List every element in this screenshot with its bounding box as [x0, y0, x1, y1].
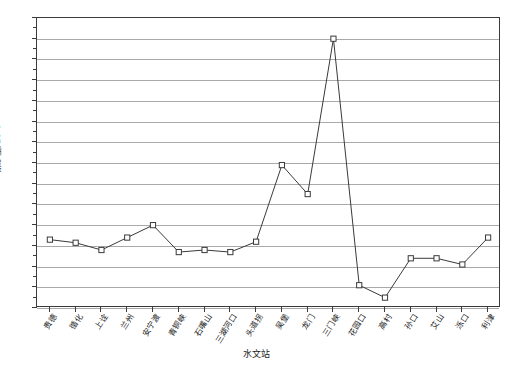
y-tick-4: [32, 162, 37, 163]
x-tick-label-14: 孙口: [402, 312, 420, 331]
y-minor-tick: [33, 255, 36, 256]
data-point-8: [254, 239, 259, 244]
y-tick-10: [32, 38, 37, 39]
y-tick-6: [32, 121, 37, 122]
x-tick-label-9: 吴堡: [273, 312, 291, 331]
y-tick-8: [32, 79, 37, 80]
y-axis-title: 输沙量/10⁸t: [0, 126, 3, 175]
y-minor-tick: [33, 214, 36, 215]
y-tick-3: [32, 183, 37, 184]
x-tick-label-11: 三门峡: [320, 312, 342, 338]
x-tick-label-1: 循化: [66, 312, 84, 331]
x-tick-label-17: 利津: [479, 312, 497, 331]
y-minor-tick: [33, 48, 36, 49]
y-tick--1: [32, 266, 37, 267]
x-tick-label-4: 安宁渡: [140, 312, 162, 338]
data-point-13: [382, 295, 387, 300]
x-tick-label-7: 三湖河口: [213, 312, 239, 345]
data-point-14: [408, 256, 413, 261]
data-point-4: [150, 223, 155, 228]
x-tick-label-5: 青铜峡: [165, 312, 187, 338]
data-point-15: [434, 256, 439, 261]
x-tick-label-0: 贵德: [41, 312, 59, 331]
y-minor-tick: [33, 152, 36, 153]
y-minor-tick: [33, 172, 36, 173]
x-axis-title: 水文站: [0, 347, 512, 360]
y-minor-tick: [33, 27, 36, 28]
plot-area: [36, 17, 500, 307]
data-point-12: [357, 283, 362, 288]
y-minor-tick: [33, 131, 36, 132]
y-minor-tick: [33, 193, 36, 194]
data-point-9: [279, 162, 284, 167]
y-axis: [36, 17, 37, 307]
x-tick-label-6: 石嘴山: [191, 312, 213, 338]
y-tick-9: [32, 58, 37, 59]
y-tick-11: [32, 17, 37, 18]
data-point-16: [460, 262, 465, 267]
data-point-7: [228, 249, 233, 254]
x-axis-ticks: [36, 307, 500, 313]
x-tick-label-15: 艾山: [427, 312, 445, 331]
data-point-5: [176, 249, 181, 254]
y-tick-7: [32, 100, 37, 101]
x-tick-label-3: 兰州: [118, 312, 136, 331]
y-tick-0: [32, 245, 37, 246]
data-point-6: [202, 247, 207, 252]
data-point-0: [47, 237, 52, 242]
x-tick-label-2: 上诠: [92, 312, 110, 331]
x-tick-label-16: 泺口: [453, 312, 471, 331]
y-tick-2: [32, 203, 37, 204]
y-minor-tick: [33, 235, 36, 236]
y-minor-tick: [33, 276, 36, 277]
data-point-17: [486, 235, 491, 240]
x-tick-label-13: 高村: [376, 312, 394, 331]
data-point-3: [125, 235, 130, 240]
y-minor-tick: [33, 90, 36, 91]
y-minor-tick: [33, 69, 36, 70]
series-line: [50, 39, 488, 298]
series-sediment-load: [37, 18, 501, 308]
data-point-1: [73, 240, 78, 245]
x-tick-label-12: 花园口: [346, 312, 368, 338]
y-tick-5: [32, 141, 37, 142]
y-minor-tick: [33, 297, 36, 298]
data-point-2: [99, 247, 104, 252]
x-tick-label-10: 龙门: [298, 312, 316, 331]
data-point-11: [331, 36, 336, 41]
y-minor-tick: [33, 110, 36, 111]
x-tick-label-8: 头道拐: [243, 312, 265, 338]
y-tick--2: [32, 286, 37, 287]
y-tick-1: [32, 224, 37, 225]
data-point-10: [305, 191, 310, 196]
chart-figure: 输沙量/10⁸t -3-2-101234567891011 贵德循化上诠兰州安宁…: [0, 0, 512, 366]
